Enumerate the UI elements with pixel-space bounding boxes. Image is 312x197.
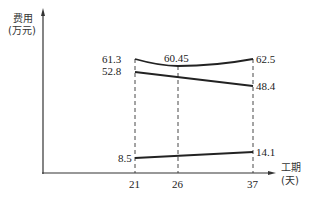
y-axis-label-line2: (万元) bbox=[8, 25, 36, 36]
label-62.5: 62.5 bbox=[256, 53, 276, 65]
x-tick-37: 37 bbox=[247, 178, 259, 190]
label-52.8: 52.8 bbox=[102, 65, 122, 77]
x-axis-label-line1: 工期 bbox=[281, 162, 301, 173]
series-total-cost bbox=[135, 59, 253, 66]
x-axis-label-line2: (天) bbox=[281, 175, 299, 186]
label-14.1: 14.1 bbox=[256, 146, 275, 158]
label-8.5: 8.5 bbox=[118, 152, 132, 164]
series-direct-cost bbox=[135, 72, 253, 86]
x-tick-21: 21 bbox=[129, 178, 140, 190]
cost-duration-chart: 费用 (万元) 工期 (天) 61.3 60.45 62.5 52.8 48.4… bbox=[0, 0, 312, 197]
y-axis-arrow-icon bbox=[41, 8, 45, 16]
label-48.4: 48.4 bbox=[256, 80, 276, 92]
label-61.3: 61.3 bbox=[102, 53, 122, 65]
x-tick-26: 26 bbox=[172, 178, 184, 190]
y-axis-label-line1: 费用 bbox=[13, 12, 33, 24]
x-axis-arrow-icon bbox=[268, 171, 276, 175]
series-indirect-cost bbox=[135, 152, 253, 158]
label-60.45: 60.45 bbox=[164, 52, 189, 64]
